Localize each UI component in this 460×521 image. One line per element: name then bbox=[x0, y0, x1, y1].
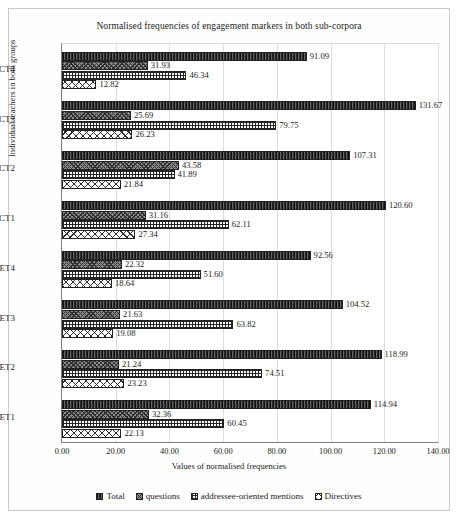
bar-ct2-addressee-oriented[interactable] bbox=[62, 170, 175, 179]
bar-value-label: 92.56 bbox=[314, 251, 333, 260]
chart-container: Normalised frequencies of engagement mar… bbox=[8, 8, 450, 511]
bar-ct2-questions[interactable] bbox=[62, 161, 179, 170]
bar-group: 120.6031.1662.1127.34 bbox=[62, 201, 438, 239]
legend-label: Total bbox=[106, 491, 124, 501]
bar-group: 104.5221.6363.8219.08 bbox=[62, 300, 438, 338]
bar-value-label: 104.52 bbox=[346, 300, 370, 309]
bar-value-label: 22.13 bbox=[124, 429, 143, 438]
legend-label: Directives bbox=[325, 491, 362, 501]
bar-group: 107.3143.5841.8921.84 bbox=[62, 151, 438, 189]
plot-area: 114.9432.3660.4522.13118.9921.2474.5123.… bbox=[61, 43, 439, 443]
bar-ct1-directives[interactable] bbox=[62, 230, 135, 239]
bar-ct2-directives[interactable] bbox=[62, 180, 121, 189]
bar-et2-addressee-oriented[interactable] bbox=[62, 369, 262, 378]
bar-value-label: 32.36 bbox=[152, 410, 171, 419]
bar-et3-total[interactable] bbox=[62, 300, 343, 309]
bar-value-label: 27.34 bbox=[138, 230, 157, 239]
bar-value-label: 26.23 bbox=[135, 130, 154, 139]
chart-title: Normalised frequencies of engagement mar… bbox=[9, 21, 449, 31]
bar-value-label: 118.99 bbox=[385, 350, 408, 359]
bar-value-label: 22.32 bbox=[125, 260, 144, 269]
bar-group: 114.9432.3660.4522.13 bbox=[62, 400, 438, 438]
bar-value-label: 131.67 bbox=[419, 101, 443, 110]
bar-value-label: 21.63 bbox=[123, 310, 142, 319]
bar-ct1-total[interactable] bbox=[62, 201, 386, 210]
bar-value-label: 79.75 bbox=[279, 121, 298, 130]
bar-value-label: 31.16 bbox=[149, 211, 168, 220]
bar-et1-questions[interactable] bbox=[62, 410, 149, 419]
bar-value-label: 25.69 bbox=[134, 111, 153, 120]
bar-ct3-addressee-oriented[interactable] bbox=[62, 121, 276, 130]
x-tick-label: 0.00 bbox=[55, 447, 70, 456]
bar-value-label: 21.24 bbox=[122, 360, 141, 369]
bar-value-label: 63.82 bbox=[236, 320, 255, 329]
bar-value-label: 23.23 bbox=[127, 379, 146, 388]
bar-value-label: 120.60 bbox=[389, 201, 413, 210]
bar-et1-addressee-oriented[interactable] bbox=[62, 419, 224, 428]
bar-et2-questions[interactable] bbox=[62, 360, 119, 369]
legend-label: questions bbox=[146, 491, 180, 501]
bar-value-label: 31.93 bbox=[151, 61, 170, 70]
category-label-ct2: CT2 bbox=[0, 163, 15, 173]
x-tick-label: 80.00 bbox=[267, 447, 286, 456]
y-axis-title: Individual teachers in both groups bbox=[7, 40, 17, 157]
bar-ct4-total[interactable] bbox=[62, 52, 307, 61]
bar-ct3-directives[interactable] bbox=[62, 130, 132, 139]
category-label-ct1: CT1 bbox=[0, 213, 15, 223]
bar-group: 92.5622.3251.6018.64 bbox=[62, 251, 438, 289]
x-tick-label: 20.00 bbox=[106, 447, 125, 456]
bar-value-label: 60.45 bbox=[227, 419, 246, 428]
category-label-et3: ET3 bbox=[0, 313, 15, 323]
bar-value-label: 62.11 bbox=[232, 220, 251, 229]
x-tick-label: 120.00 bbox=[373, 447, 396, 456]
bar-et2-total[interactable] bbox=[62, 350, 382, 359]
legend-item[interactable]: addressee-oriented mentions bbox=[191, 491, 304, 501]
bar-group: 131.6725.6979.7526.23 bbox=[62, 101, 438, 139]
bar-et3-questions[interactable] bbox=[62, 310, 120, 319]
bar-et2-directives[interactable] bbox=[62, 379, 124, 388]
bar-value-label: 41.89 bbox=[178, 170, 197, 179]
legend-item[interactable]: questions bbox=[136, 491, 180, 501]
bar-et3-directives[interactable] bbox=[62, 329, 113, 338]
bar-et4-questions[interactable] bbox=[62, 260, 122, 269]
category-label-et1: ET1 bbox=[0, 412, 15, 422]
legend-swatch-icon bbox=[96, 493, 103, 500]
bar-ct2-total[interactable] bbox=[62, 151, 350, 160]
bar-value-label: 19.08 bbox=[116, 329, 135, 338]
bar-value-label: 12.82 bbox=[99, 80, 118, 89]
x-tick-label: 100.00 bbox=[319, 447, 342, 456]
bar-ct1-questions[interactable] bbox=[62, 211, 146, 220]
x-tick-label: 40.00 bbox=[160, 447, 179, 456]
bar-value-label: 74.51 bbox=[265, 369, 284, 378]
bar-value-label: 51.60 bbox=[204, 270, 223, 279]
legend-item[interactable]: Total bbox=[96, 491, 124, 501]
bar-group: 118.9921.2474.5123.23 bbox=[62, 350, 438, 388]
x-tick-label: 140.00 bbox=[426, 447, 449, 456]
legend-label: addressee-oriented mentions bbox=[201, 491, 304, 501]
bar-et4-total[interactable] bbox=[62, 251, 311, 260]
bar-et4-directives[interactable] bbox=[62, 279, 112, 288]
bar-value-label: 91.09 bbox=[310, 52, 329, 61]
x-axis-title: Values of normalised frequencies bbox=[9, 461, 449, 471]
legend-item[interactable]: Directives bbox=[315, 491, 362, 501]
bar-et3-addressee-oriented[interactable] bbox=[62, 320, 233, 329]
bar-value-label: 46.34 bbox=[189, 71, 208, 80]
bar-group: 91.0931.9346.3412.82 bbox=[62, 52, 438, 90]
category-label-et2: ET2 bbox=[0, 362, 15, 372]
chart-legend: Totalquestionsaddressee-oriented mention… bbox=[9, 491, 449, 501]
bar-et1-total[interactable] bbox=[62, 400, 371, 409]
bar-ct3-total[interactable] bbox=[62, 101, 416, 110]
bar-ct4-directives[interactable] bbox=[62, 80, 96, 89]
bar-ct4-questions[interactable] bbox=[62, 61, 148, 70]
bar-value-label: 114.94 bbox=[374, 400, 397, 409]
x-tick-label: 60.00 bbox=[214, 447, 233, 456]
bar-value-label: 18.64 bbox=[115, 279, 134, 288]
legend-swatch-icon bbox=[136, 493, 143, 500]
bar-ct1-addressee-oriented[interactable] bbox=[62, 220, 229, 229]
category-label-et4: ET4 bbox=[0, 263, 15, 273]
bar-et1-directives[interactable] bbox=[62, 429, 121, 438]
bar-ct4-addressee-oriented[interactable] bbox=[62, 71, 186, 80]
bar-value-label: 107.31 bbox=[353, 151, 377, 160]
bar-ct3-questions[interactable] bbox=[62, 111, 131, 120]
legend-swatch-icon bbox=[191, 493, 198, 500]
